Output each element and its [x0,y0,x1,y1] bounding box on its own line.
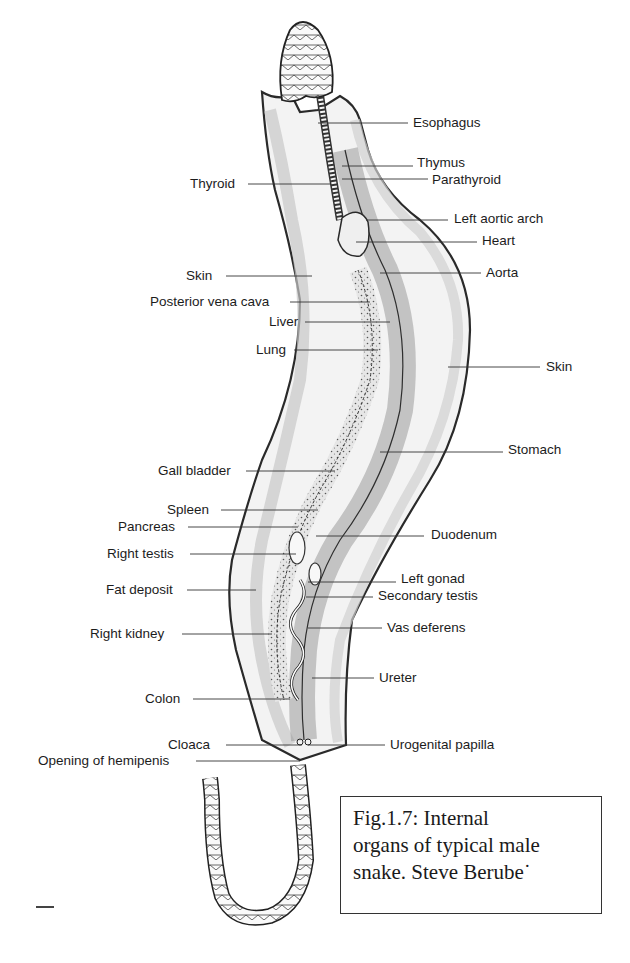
figure-caption: Fig.1.7: Internal organs of typical male… [340,796,602,914]
label-skin-right: Skin [546,359,572,375]
label-parathyroid: Parathyroid [432,172,501,188]
label-right-kidney: Right kidney [90,626,164,642]
label-ureter: Ureter [379,670,417,686]
stray-dash-mark [36,906,54,908]
head [280,22,333,101]
caption-line-1: Fig.1.7: Internal [353,805,589,832]
label-secondary-testis: Secondary testis [378,588,478,604]
label-heart: Heart [482,233,515,249]
label-vas-deferens: Vas deferens [387,620,466,636]
label-spleen: Spleen [167,502,209,518]
label-liver: Liver [269,314,298,330]
label-left-gonad: Left gonad [401,571,465,587]
caption-line-3: snake. Steve Berube˙ [353,859,589,886]
label-gall-bladder: Gall bladder [158,463,231,479]
label-skin-left: Skin [186,268,212,284]
label-pancreas: Pancreas [118,519,175,535]
label-posterior-vena-cava: Posterior vena cava [150,294,269,310]
label-thymus: Thymus [417,155,465,171]
label-cloaca: Cloaca [168,737,210,753]
label-colon: Colon [145,691,180,707]
label-aorta: Aorta [486,265,518,281]
label-right-testis: Right testis [107,546,174,562]
label-left-aortic-arch: Left aortic arch [454,211,543,227]
label-esophagus: Esophagus [413,115,481,131]
caption-line-2: organs of typical male [353,832,589,859]
label-urogenital-papilla: Urogenital papilla [390,737,494,753]
label-fat-deposit: Fat deposit [106,582,173,598]
heart-shape [338,212,369,256]
label-thyroid: Thyroid [190,176,235,192]
label-opening-of-hemipenis: Opening of hemipenis [38,753,169,769]
label-lung: Lung [256,342,286,358]
label-duodenum: Duodenum [431,527,497,543]
label-stomach: Stomach [508,442,561,458]
